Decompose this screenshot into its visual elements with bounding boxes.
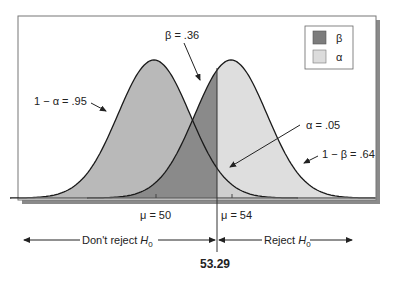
label-reject: Reject H0: [264, 234, 311, 249]
legend-alpha-swatch: [313, 50, 326, 63]
annotation-one-minus-alpha: 1 − α = .95: [34, 95, 87, 107]
label-mu1: μ = 54: [221, 209, 252, 221]
legend-alpha-label: α: [336, 51, 343, 63]
legend-beta-swatch: [313, 31, 326, 44]
critical-value-label: 53.29: [200, 257, 230, 271]
annotation-one-minus-beta: 1 − β = .64: [322, 148, 375, 160]
legend-beta-label: β: [336, 32, 342, 44]
label-dont-reject: Don't reject H0: [82, 234, 153, 249]
power-diagram: β α 1 − α = .95 β = .36 α = .05 1 − β = …: [0, 0, 396, 286]
annotation-alpha: α = .05: [306, 119, 340, 131]
legend: β α: [305, 26, 353, 69]
label-mu0: μ = 50: [140, 209, 171, 221]
annotation-beta: β = .36: [165, 29, 199, 41]
